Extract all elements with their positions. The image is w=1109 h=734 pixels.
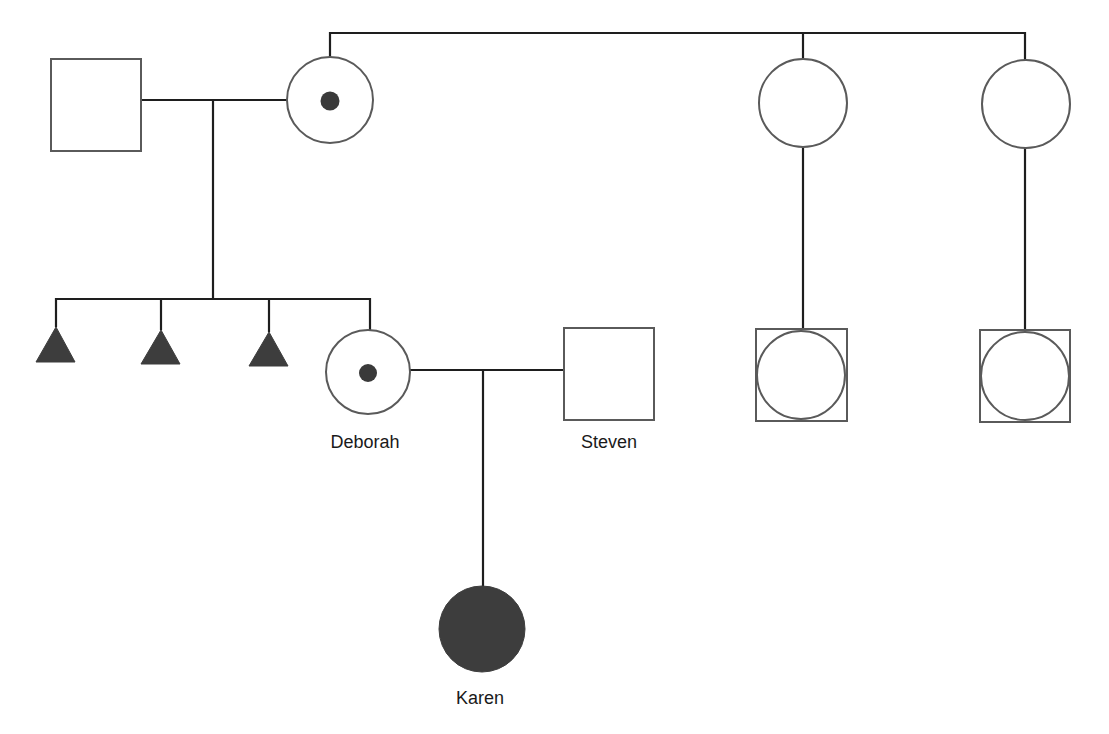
- deborah-label: Deborah: [330, 432, 399, 452]
- pedigree-chart: Deborah Steven Karen: [0, 0, 1109, 734]
- deborah-carrier-symbol[interactable]: [326, 330, 410, 414]
- generation-1-sibship: [330, 33, 1025, 60]
- miscarriage-1-triangle-icon[interactable]: [36, 327, 75, 362]
- cousin-2-symbol[interactable]: [980, 330, 1070, 422]
- cousin-2-square: [980, 330, 1070, 422]
- miscarriage-3-triangle-icon[interactable]: [249, 332, 288, 366]
- sibship-line-generation-2: [56, 299, 370, 330]
- sibship-line-top: [330, 33, 1025, 60]
- karen-label: Karen: [456, 688, 504, 708]
- grandfather-male-symbol[interactable]: [51, 59, 141, 151]
- grandmother-carrier-symbol[interactable]: [287, 57, 373, 143]
- miscarriage-2-triangle-icon[interactable]: [141, 330, 180, 364]
- great-aunt-1-female-symbol[interactable]: [759, 59, 847, 147]
- cousin-1-symbol[interactable]: [756, 329, 847, 421]
- carrier-dot-icon: [359, 364, 377, 382]
- steven-male-symbol[interactable]: [564, 328, 654, 420]
- great-aunt-2-female-symbol[interactable]: [982, 60, 1070, 148]
- karen-affected-female-symbol[interactable]: [439, 586, 525, 672]
- steven-label: Steven: [581, 432, 637, 452]
- carrier-dot-icon: [321, 92, 340, 111]
